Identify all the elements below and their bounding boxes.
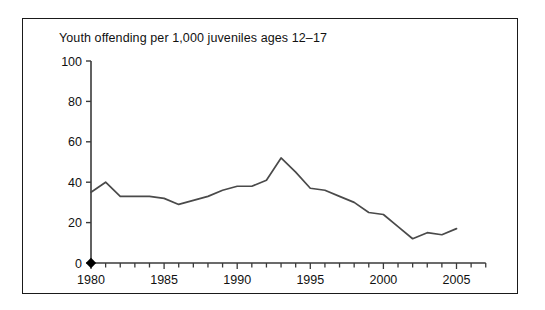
y-axis-tick-label: 40 (68, 176, 82, 190)
x-axis-tick-label: 1990 (223, 273, 251, 287)
y-axis-tick-label: 100 (61, 55, 82, 69)
x-axis-tick-label: 1980 (77, 273, 105, 287)
data-line-series (91, 158, 457, 239)
y-axis-tick-label: 0 (75, 257, 82, 271)
origin-diamond-marker (86, 258, 96, 268)
chart-frame: Youth offending per 1,000 juveniles ages… (22, 18, 518, 294)
y-axis-tick-label: 80 (68, 95, 82, 109)
line-chart-plot: 020406080100198019851990199520002005 (23, 19, 519, 295)
y-axis-tick-label: 20 (68, 216, 82, 230)
x-axis-tick-label: 2000 (369, 273, 397, 287)
x-axis-tick-label: 1985 (150, 273, 178, 287)
y-axis-tick-label: 60 (68, 135, 82, 149)
x-axis-tick-label: 2005 (443, 273, 471, 287)
x-axis-tick-label: 1995 (296, 273, 324, 287)
